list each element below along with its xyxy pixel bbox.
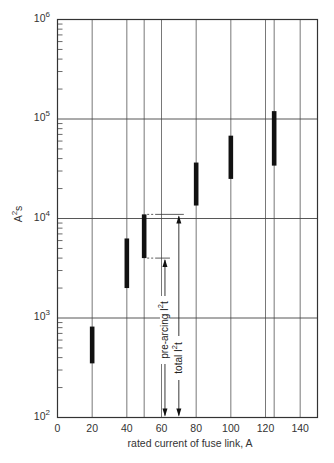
y-tick-label: 105 bbox=[34, 109, 51, 123]
gridlines bbox=[58, 20, 318, 418]
i2t-chart: pre-arcing I2ttotal I2t 0204060801001201… bbox=[0, 0, 334, 463]
y-tick-label: 102 bbox=[34, 408, 51, 422]
range-bar bbox=[272, 111, 277, 165]
annotation-text: pre-arcing I2t bbox=[156, 301, 170, 359]
y-tick-labels: 102103104105106 bbox=[34, 10, 51, 422]
arrow-down-icon bbox=[176, 409, 181, 417]
arrow-up-icon bbox=[162, 259, 167, 267]
x-tick-label: 60 bbox=[156, 422, 168, 434]
y-tick-label: 104 bbox=[34, 209, 51, 223]
range-bar bbox=[194, 163, 199, 206]
x-tick-label: 0 bbox=[55, 422, 61, 434]
annotation-label: pre-arcing I2t bbox=[156, 301, 170, 359]
arrow-up-icon bbox=[176, 215, 181, 223]
annotations: pre-arcing I2ttotal I2t bbox=[147, 214, 184, 416]
y-axis-title: A2s bbox=[10, 206, 24, 223]
y-tick-label: 106 bbox=[34, 10, 51, 24]
x-tick-label: 40 bbox=[121, 422, 133, 434]
x-tick-label: 120 bbox=[257, 422, 275, 434]
x-tick-labels: 020406080100120140 bbox=[55, 422, 310, 434]
x-tick-label: 80 bbox=[190, 422, 202, 434]
x-tick-label: 100 bbox=[222, 422, 240, 434]
range-bar bbox=[142, 214, 147, 258]
range-bar bbox=[229, 136, 234, 179]
range-bar bbox=[90, 327, 95, 364]
svg-text:A2s: A2s bbox=[10, 206, 24, 223]
y-tick-label: 103 bbox=[34, 308, 51, 322]
range-bars bbox=[90, 111, 277, 363]
x-tick-label: 140 bbox=[291, 422, 309, 434]
y-minor-ticks bbox=[58, 24, 63, 387]
x-tick-label: 20 bbox=[86, 422, 98, 434]
range-bar bbox=[125, 238, 130, 288]
x-axis-title: rated current of fuse link, A bbox=[128, 437, 253, 449]
arrow-down-icon bbox=[162, 409, 167, 417]
